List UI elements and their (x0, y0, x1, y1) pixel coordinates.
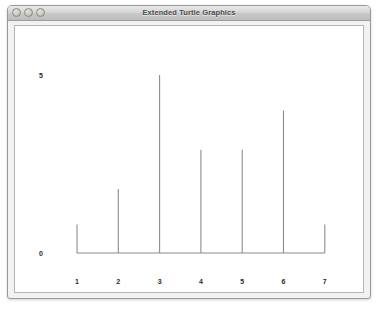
y-axis-labels: 05 (39, 72, 43, 257)
x-tick-label-2: 2 (116, 278, 120, 285)
x-tick-label-3: 3 (158, 278, 162, 285)
application-window: Extended Turtle Graphics 05 1234567 (7, 5, 371, 299)
bar-chart: 05 1234567 (15, 26, 363, 292)
x-axis-labels: 1234567 (75, 278, 327, 285)
bars-group (77, 75, 325, 253)
turtle-graphics-canvas[interactable]: 05 1234567 (14, 25, 364, 293)
y-tick-label-0: 0 (39, 250, 43, 257)
window-title: Extended Turtle Graphics (8, 7, 370, 19)
x-tick-label-4: 4 (199, 278, 203, 285)
x-tick-label-1: 1 (75, 278, 79, 285)
x-tick-label-7: 7 (323, 278, 327, 285)
window-titlebar[interactable]: Extended Turtle Graphics (8, 6, 370, 21)
x-tick-label-6: 6 (282, 278, 286, 285)
y-tick-label-5: 5 (39, 72, 43, 79)
screenshot-root: Extended Turtle Graphics 05 1234567 (0, 0, 384, 313)
x-tick-label-5: 5 (240, 278, 244, 285)
